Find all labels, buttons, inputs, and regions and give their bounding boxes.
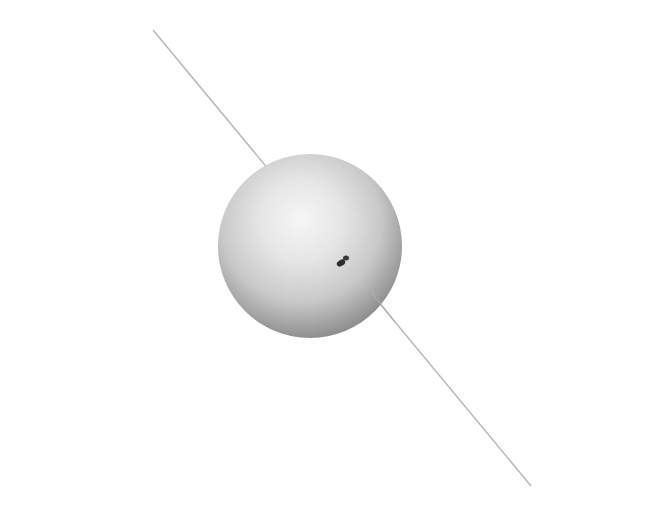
sphere-texture [218,154,402,338]
sun-axis-diagram [0,0,649,514]
